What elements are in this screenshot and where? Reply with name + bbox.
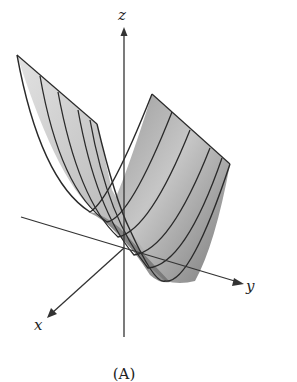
- z-axis-arrow-icon: [121, 27, 128, 36]
- y-axis-arrow-icon: [232, 278, 244, 286]
- z-axis-label: z: [118, 8, 126, 23]
- surface-figure: [0, 0, 297, 382]
- surface-right-wing: [110, 94, 230, 283]
- x-axis-label: x: [34, 318, 42, 333]
- y-axis-label: y: [246, 279, 254, 294]
- x-axis: [52, 248, 124, 313]
- figure-caption: (A): [0, 365, 248, 382]
